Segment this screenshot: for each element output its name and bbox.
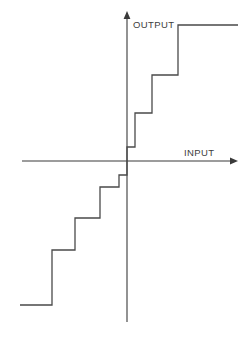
x-axis-label-input: INPUT xyxy=(184,148,215,158)
y-axis-arrowhead xyxy=(124,11,131,19)
x-axis-arrowhead xyxy=(230,158,238,165)
quantizer-staircase-curve xyxy=(20,25,238,305)
y-axis-label-output: OUTPUT xyxy=(133,20,174,30)
quantizer-transfer-function-figure: OUTPUT INPUT xyxy=(0,0,250,338)
x-axis-group xyxy=(22,158,238,165)
plot-canvas xyxy=(0,0,250,338)
